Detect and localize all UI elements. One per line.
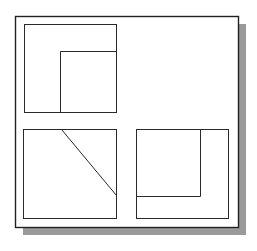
drawing-frame xyxy=(16,17,239,228)
projection-diagram xyxy=(0,0,257,251)
